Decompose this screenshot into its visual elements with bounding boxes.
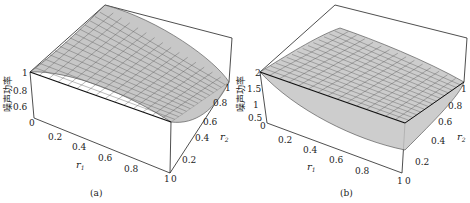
z-tick: 0.6 — [13, 102, 28, 112]
panel-label: (a) — [90, 188, 102, 198]
x-tick: 1 — [397, 176, 403, 186]
surface-plot-a: 1 0.8 0.6 0 噪声功率 0.2 0.4 0.6 0.8 1 0 r1 … — [0, 0, 235, 203]
axis-origin: 0 — [260, 121, 266, 131]
axis-origin: 0 — [29, 118, 35, 128]
x-tick: 0.8 — [124, 164, 139, 174]
surface-a — [30, 5, 229, 122]
x-tick: 0.2 — [48, 132, 62, 142]
x-tick: 0.4 — [72, 142, 87, 152]
y-tick: 1 — [225, 83, 231, 93]
y-tick: 0.4 — [431, 136, 446, 146]
plot-panel-a: 1 0.8 0.6 0 噪声功率 0.2 0.4 0.6 0.8 1 0 r1 … — [0, 0, 235, 203]
y-tick: 0.6 — [438, 117, 453, 127]
z-axis-label: 噪声功率 — [2, 76, 13, 112]
z-tick: 1 — [253, 100, 259, 110]
y-axis-label: r2 — [457, 131, 466, 143]
y-tick: 1 — [461, 84, 467, 94]
y-origin: 0 — [171, 174, 177, 184]
x-tick: 0.8 — [355, 166, 370, 176]
y-tick: 0.2 — [182, 155, 196, 165]
y-axis-label: r2 — [220, 131, 229, 143]
x-tick: 0.6 — [98, 153, 113, 163]
panel-label: (b) — [340, 188, 353, 198]
z-axis-label: 噪声功率 — [235, 76, 246, 112]
x-tick: 1 — [164, 174, 170, 184]
surface-plot-b: 2 1.5 1 0.5 0 噪声功率 0.2 0.4 0.6 0.8 1 0 r… — [235, 0, 470, 203]
y-tick: 0.4 — [195, 133, 210, 143]
y-tick: 0.2 — [415, 157, 429, 167]
x-axis-label: r1 — [307, 161, 316, 173]
x-axis-label: r1 — [76, 159, 85, 171]
z-tick: 1 — [22, 68, 28, 78]
y-tick: 0.6 — [203, 117, 218, 127]
y-tick: 0.8 — [448, 101, 463, 111]
z-tick: 0.8 — [13, 86, 28, 96]
y-origin: 0 — [405, 176, 411, 186]
z-tick: 1.5 — [247, 84, 262, 94]
x-tick: 0.6 — [329, 155, 344, 165]
z-tick: 2 — [255, 68, 261, 78]
y-tick: 0.8 — [213, 98, 228, 108]
x-tick: 0.2 — [278, 135, 292, 145]
plot-panel-b: 2 1.5 1 0.5 0 噪声功率 0.2 0.4 0.6 0.8 1 0 r… — [235, 0, 470, 203]
x-tick: 0.4 — [303, 145, 318, 155]
